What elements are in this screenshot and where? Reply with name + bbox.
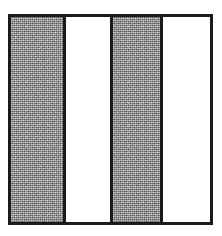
- panel-frame: [8, 14, 213, 225]
- band-2-white: [63, 17, 111, 222]
- band-4-white: [160, 17, 210, 222]
- band-1-gray: [11, 17, 63, 222]
- band-3-gray: [110, 17, 160, 222]
- figure-root: [0, 0, 222, 236]
